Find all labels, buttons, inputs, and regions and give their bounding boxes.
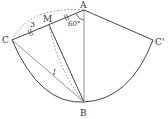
label-a: A <box>79 0 87 10</box>
label-c: C <box>2 35 9 45</box>
cone-development-diagram: A B C C' M 3 60° l <box>0 0 168 119</box>
label-angle: 60° <box>68 20 80 28</box>
segment-mb <box>49 25 84 102</box>
label-c-prime: C' <box>155 37 164 47</box>
segment-ac-prime <box>84 10 153 40</box>
segment-cb <box>12 40 84 102</box>
label-l: l <box>53 68 56 77</box>
label-b: B <box>80 108 87 118</box>
sector-arc <box>12 40 153 102</box>
label-arc-length: 3 <box>30 20 35 29</box>
label-m: M <box>43 14 52 24</box>
